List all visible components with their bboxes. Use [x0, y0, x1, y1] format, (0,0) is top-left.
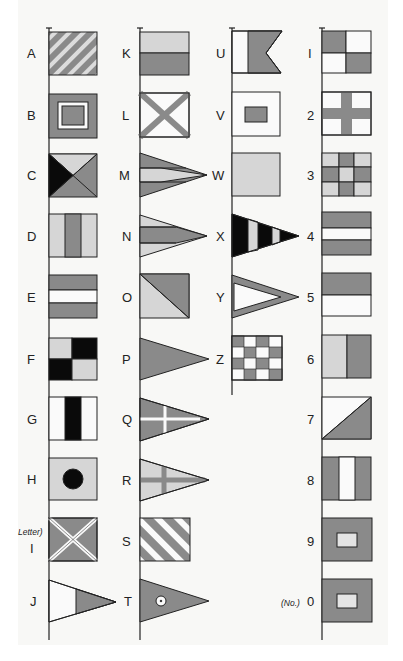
flag-number-4 — [322, 212, 371, 255]
label-y: Y — [216, 290, 225, 305]
flag-h — [49, 458, 97, 500]
flag-x-pennant — [232, 214, 299, 257]
flag-a — [49, 32, 97, 75]
label-e: E — [27, 290, 36, 305]
flag-s — [140, 518, 190, 561]
label-number-5: 5 — [307, 290, 314, 305]
flag-k — [140, 32, 189, 75]
label-c: C — [27, 168, 36, 183]
flag-number-5 — [322, 273, 371, 316]
label-x: X — [216, 229, 225, 244]
flag-m-pennant — [140, 153, 207, 197]
label-z: Z — [216, 352, 224, 367]
label-n: N — [122, 229, 131, 244]
flag-p-pennant — [140, 338, 209, 380]
flag-number-9 — [322, 518, 372, 561]
flag-w — [232, 153, 280, 196]
label-j: J — [30, 594, 37, 609]
label-number-prefix: (No.) — [281, 598, 300, 608]
flag-number-0 — [322, 579, 372, 622]
label-number-6: 6 — [307, 352, 314, 367]
label-number-8: 8 — [307, 473, 314, 488]
label-number-1: I — [308, 46, 312, 61]
label-k: K — [122, 46, 131, 61]
flag-f — [49, 338, 97, 380]
flag-e — [49, 275, 97, 318]
flag-n-pennant — [140, 215, 207, 257]
label-l: L — [122, 108, 129, 123]
label-v: V — [216, 108, 225, 123]
flag-v — [232, 92, 280, 136]
label-q: Q — [122, 412, 132, 427]
label-g: G — [27, 412, 37, 427]
flag-number-1 — [322, 31, 371, 73]
flag-number-2 — [322, 92, 371, 135]
flag-z — [232, 336, 282, 380]
flag-letter-i — [49, 518, 97, 561]
label-t: T — [124, 594, 132, 609]
flag-q-pennant — [140, 398, 209, 441]
flag-j — [49, 580, 116, 622]
flag-g — [49, 397, 97, 440]
label-f: F — [27, 352, 35, 367]
label-u: U — [216, 46, 225, 61]
flag-c — [49, 154, 97, 197]
flag-b — [49, 94, 97, 138]
label-p: P — [122, 352, 131, 367]
flag-o — [140, 274, 189, 318]
label-number-7: 7 — [307, 412, 314, 427]
signal-flags-diagram: A B C D E F G H Letter) I J K L M N O P … — [0, 0, 403, 661]
label-o: O — [122, 290, 132, 305]
label-m: M — [119, 168, 130, 183]
flag-number-7 — [322, 397, 371, 439]
flag-t-pennant — [140, 579, 209, 622]
flag-u-swallowtail — [232, 31, 282, 73]
flag-number-6 — [322, 335, 371, 378]
flag-l — [140, 93, 189, 137]
label-i: I — [30, 541, 34, 556]
label-letter-prefix: Letter) — [18, 527, 43, 537]
flag-r-pennant — [140, 459, 209, 501]
flag-number-8 — [322, 457, 371, 500]
label-b: B — [27, 108, 36, 123]
flag-d — [49, 214, 97, 257]
label-s: S — [122, 534, 131, 549]
label-r: R — [122, 473, 131, 488]
flag-y-pennant — [232, 275, 299, 318]
label-number-2: 2 — [307, 108, 314, 123]
label-number-0: 0 — [307, 594, 314, 609]
label-a: A — [27, 46, 36, 61]
flag-number-3 — [322, 153, 371, 196]
label-number-4: 4 — [307, 229, 314, 244]
label-d: D — [27, 229, 36, 244]
label-h: H — [27, 472, 36, 487]
label-number-9: 9 — [307, 534, 314, 549]
label-w: W — [212, 168, 225, 183]
label-number-3: 3 — [307, 168, 314, 183]
